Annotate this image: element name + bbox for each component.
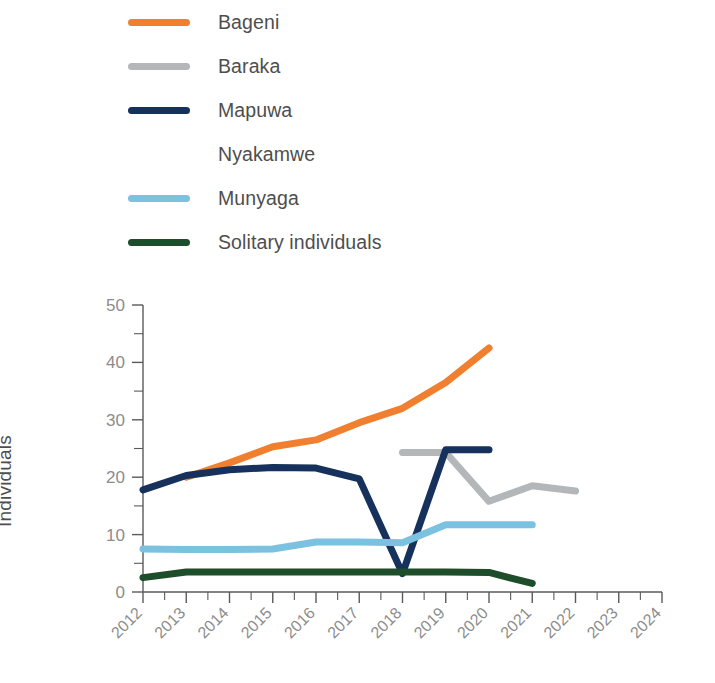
legend-item-baraka[interactable]: Baraka [128,44,588,88]
series-lines [143,348,576,583]
plot-area: Individuals 01020304050 2012201320142015… [0,265,715,683]
y-tick-label: 40 [106,353,125,372]
legend-item-bageni[interactable]: Bageni [128,0,588,44]
legend-swatch-bageni [128,19,190,26]
x-tick-label: 2014 [194,604,231,641]
x-axis-tick-labels: 2012201320142015201620172018201920202021… [108,604,664,641]
legend-label-solitary-individuals: Solitary individuals [218,231,382,254]
x-tick-label: 2022 [540,604,577,641]
legend-label-munyaga: Munyaga [218,187,299,210]
y-tick-label: 0 [116,583,125,602]
y-axis-tick-labels: 01020304050 [106,296,125,602]
legend-item-nyakamwe[interactable]: Nyakamwe [128,132,588,176]
x-tick-label: 2024 [627,604,664,641]
y-tick-label: 10 [106,526,125,545]
chart-figure: Bageni Baraka Mapuwa Nyakamwe Munyaga So… [0,0,715,683]
legend-label-mapuwa: Mapuwa [218,99,292,122]
legend-item-solitary-individuals[interactable]: Solitary individuals [128,220,588,264]
x-axis-major-ticks [143,592,662,603]
legend-item-mapuwa[interactable]: Mapuwa [128,88,588,132]
x-tick-label: 2023 [584,604,621,641]
x-tick-label: 2017 [324,604,361,641]
line-chart-svg: 01020304050 2012201320142015201620172018… [0,265,715,683]
legend-swatch-baraka [128,63,190,70]
x-tick-label: 2019 [411,604,448,641]
y-tick-label: 30 [106,411,125,430]
x-tick-label: 2021 [497,604,534,641]
y-axis-label: Individuals [0,401,16,561]
legend-swatch-nyakamwe [128,151,190,158]
series-line-solitary-individuals [143,572,532,583]
y-tick-label: 50 [106,296,125,315]
chart-legend: Bageni Baraka Mapuwa Nyakamwe Munyaga So… [128,0,588,264]
x-tick-label: 2013 [151,604,188,641]
legend-item-munyaga[interactable]: Munyaga [128,176,588,220]
legend-swatch-munyaga [128,195,190,202]
x-tick-label: 2020 [454,604,491,641]
x-tick-label: 2018 [367,604,404,641]
y-axis-minor-ticks [134,334,143,564]
x-tick-label: 2012 [108,604,145,641]
x-tick-label: 2016 [281,604,318,641]
series-line-mapuwa [143,450,489,574]
legend-label-baraka: Baraka [218,55,280,78]
y-tick-label: 20 [106,468,125,487]
series-line-munyaga [143,525,532,550]
legend-swatch-mapuwa [128,107,190,114]
legend-label-bageni: Bageni [218,11,279,34]
legend-swatch-solitary-individuals [128,239,190,246]
x-tick-label: 2015 [238,604,275,641]
legend-label-nyakamwe: Nyakamwe [218,143,315,166]
